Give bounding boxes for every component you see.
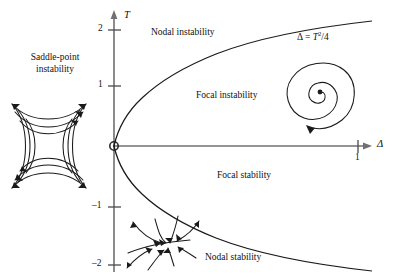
saddle-label-line2: instability — [8, 63, 102, 75]
tick-label-t-neg2: –2 — [92, 258, 102, 268]
tick-label-t-1: 1 — [98, 79, 103, 89]
delta-axis-label: Δ — [377, 138, 383, 149]
saddle-point-instability-label: Saddle-point instability — [8, 51, 102, 75]
t-axis-label: T — [124, 9, 130, 20]
spiral-center-dot — [318, 90, 322, 94]
spiral-arrowhead — [306, 125, 315, 134]
stability-diagram — [0, 0, 396, 277]
node-portrait — [127, 216, 199, 270]
axes-group — [108, 10, 372, 272]
parabola-equation-label: Δ = T2/4 — [297, 30, 329, 42]
tick-label-t-neg1: –1 — [92, 200, 102, 210]
delta-axis-arrow — [363, 143, 372, 150]
parabola-upper-branch — [114, 21, 372, 146]
saddle-portrait — [12, 104, 86, 188]
t-axis-arrow — [111, 10, 118, 19]
tick-label-delta-1: 1 — [355, 152, 360, 162]
spiral-portrait — [287, 63, 354, 134]
equation-divisor: /4 — [321, 32, 328, 42]
equation-delta: Δ — [297, 32, 303, 42]
nodal-stability-label: Nodal stability — [205, 252, 261, 262]
tick-label-t-2: 2 — [98, 23, 103, 33]
nodal-instability-label: Nodal instability — [151, 27, 215, 37]
equation-equals: = — [305, 32, 310, 42]
saddle-label-line1: Saddle-point — [8, 51, 102, 63]
focal-instability-label: Focal instability — [196, 90, 257, 100]
spiral-path — [287, 63, 354, 129]
focal-stability-label: Focal stability — [217, 170, 271, 180]
